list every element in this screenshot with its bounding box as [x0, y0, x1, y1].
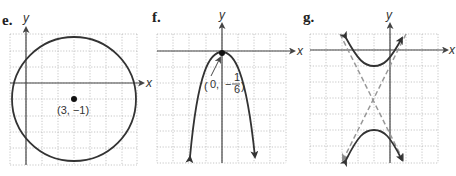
graph-f-x-label: x	[296, 44, 304, 58]
svg-text:(: (	[204, 80, 208, 92]
graph-f: f. y x ( 0, − 1 6 )	[152, 8, 304, 163]
conic-graphs: e. y x (3, −1) f.	[0, 0, 456, 176]
graph-g-x-label: x	[448, 43, 456, 57]
graph-g: g. y x	[303, 8, 456, 163]
graph-e-center-label: (3, −1)	[57, 104, 89, 116]
svg-text:0,: 0,	[210, 78, 219, 90]
graph-g-asymptote-2	[343, 34, 406, 160]
graph-e: e. y x (3, −1)	[2, 11, 153, 165]
graph-e-x-label: x	[145, 76, 153, 90]
svg-text:6: 6	[234, 83, 240, 95]
graph-g-label: g.	[303, 9, 315, 25]
graph-f-y-label: y	[218, 8, 226, 22]
svg-text:1: 1	[234, 71, 240, 83]
graph-f-label: f.	[152, 9, 161, 25]
graph-e-y-label: y	[22, 11, 30, 25]
svg-text:−: −	[225, 78, 231, 90]
graph-f-vertex-point	[219, 50, 225, 56]
graph-e-center-point	[71, 96, 77, 102]
graph-g-y-label: y	[385, 8, 393, 22]
svg-text:): )	[241, 80, 245, 92]
graph-f-vertex-label: ( 0, − 1 6 )	[204, 71, 245, 95]
graph-e-label: e.	[2, 12, 13, 28]
